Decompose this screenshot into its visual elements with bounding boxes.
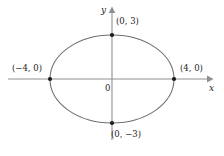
- vertex-dot-bottom: [110, 121, 114, 125]
- point-label-top: (0, 3): [116, 17, 139, 26]
- x-axis-label: x: [209, 84, 214, 93]
- point-label-right: (4, 0): [180, 64, 203, 73]
- y-axis-arrowhead: [109, 7, 116, 14]
- x-axis-arrowhead: [207, 76, 214, 83]
- vertex-dot-right: [172, 77, 176, 81]
- y-axis-label: y: [101, 6, 106, 15]
- point-label-bottom: (0, −3): [111, 130, 141, 139]
- origin-label: 0: [105, 84, 110, 93]
- point-label-left: (−4, 0): [12, 64, 42, 73]
- vertex-dot-left: [48, 77, 52, 81]
- ellipse-figure: (0, 3) (4, 0) (0, −3) (−4, 0) 0 x y: [0, 0, 224, 156]
- vertex-dot-top: [110, 33, 114, 37]
